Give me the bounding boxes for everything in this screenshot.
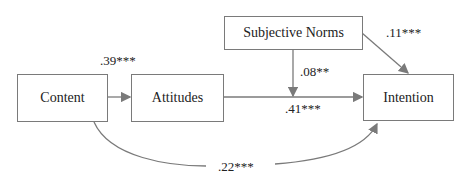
node-content-label: Content (40, 90, 84, 106)
node-attitudes-label: Attitudes (152, 90, 203, 106)
coef-attitudes-intention: .41*** (285, 101, 321, 117)
node-subjective-norms: Subjective Norms (224, 16, 363, 50)
node-content: Content (17, 74, 108, 122)
coef-norms-intention: .11*** (386, 25, 421, 41)
node-intention: Intention (363, 74, 454, 121)
coef-content-attitudes: .39*** (100, 53, 136, 69)
node-attitudes: Attitudes (131, 74, 224, 122)
node-subjective-norms-label: Subjective Norms (243, 25, 344, 41)
coef-norms-moderation: .08** (300, 64, 329, 80)
coef-content-intention: .22*** (218, 159, 254, 175)
node-intention-label: Intention (383, 90, 434, 106)
